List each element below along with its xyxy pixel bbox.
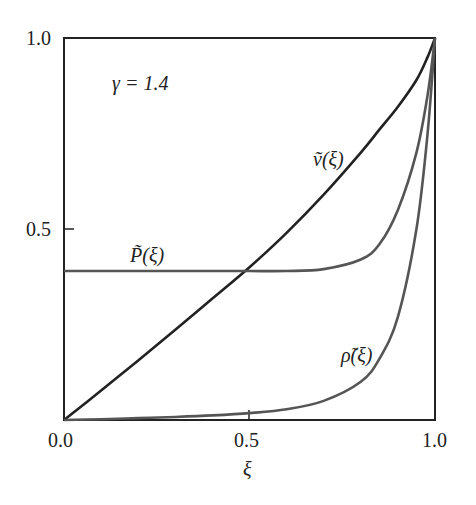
rho-curve [64, 38, 435, 420]
rho-curve-label: ρ̃(ξ) [340, 344, 373, 367]
P-curve-label: P̃(ξ) [129, 244, 164, 267]
curves [64, 38, 435, 420]
plot-frame [64, 38, 435, 420]
x-tick-label-0.5: 0.5 [234, 429, 259, 451]
x-axis-label: ξ [243, 458, 252, 480]
v-curve [64, 38, 435, 420]
x-tick-label-0.0: 0.0 [48, 429, 73, 451]
gamma-annotation: γ = 1.4 [112, 72, 168, 95]
v-curve-label: ṽ(ξ) [313, 148, 344, 171]
y-tick-label-1.0: 1.0 [26, 27, 51, 49]
chart: 1.0 0.5 0.0 0.5 1.0 ξ γ = 1.4 ṽ(ξ) P̃(ξ)… [0, 0, 476, 505]
y-tick-label-0.5: 0.5 [26, 218, 51, 240]
x-tick-label-1.0: 1.0 [422, 429, 447, 451]
